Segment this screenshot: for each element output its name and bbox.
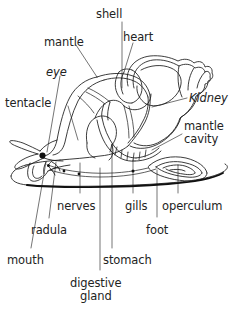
label-mantle-cavity: mantle cavity: [184, 120, 224, 146]
nerve-ganglia: [47, 164, 135, 175]
eye-spot: [39, 152, 45, 158]
snail-anatomy-diagram: shell mantle heart eye tentacle Kidney m…: [0, 0, 231, 313]
label-kidney: Kidney: [189, 92, 228, 105]
label-nerves: nerves: [57, 200, 95, 213]
label-foot: foot: [146, 224, 168, 237]
label-heart: heart: [123, 31, 153, 44]
leader-heart: [124, 43, 133, 72]
leader-mantle: [76, 45, 97, 77]
label-operculum: operculum: [162, 200, 222, 213]
label-radula: radula: [31, 224, 67, 237]
label-tentacle: tentacle: [5, 97, 51, 110]
leader-eye: [47, 76, 60, 152]
label-stomach: stomach: [103, 254, 152, 267]
leader-mantle-cavity: [152, 134, 182, 150]
head-and-tentacles: [10, 140, 70, 181]
label-shell: shell: [96, 8, 122, 21]
label-digestive-gland: digestive gland: [70, 277, 122, 303]
label-eye: eye: [46, 66, 67, 79]
nerve-cords: [48, 161, 156, 177]
label-mouth: mouth: [7, 254, 44, 267]
label-mantle: mantle: [44, 36, 84, 49]
label-gills: gills: [125, 200, 147, 213]
